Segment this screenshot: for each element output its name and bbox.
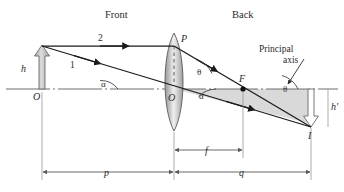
focal-point-dot	[240, 86, 245, 91]
label-front: Front	[105, 9, 128, 20]
label-angle-alpha-right: α	[199, 91, 204, 101]
label-ray-2: 2	[98, 33, 103, 43]
label-object-height: h	[21, 63, 26, 74]
ray-diagram-svg: Front Back Principal axis h h' 1 2 O O P…	[0, 0, 344, 192]
label-angle-alpha-left: α	[101, 79, 106, 89]
label-distance-q: q	[239, 167, 244, 178]
label-point-I: I	[307, 130, 312, 141]
label-point-P: P	[180, 33, 187, 44]
label-distance-f: f	[205, 145, 209, 156]
label-angle-theta-left: θ	[197, 67, 201, 77]
label-ray-1: 1	[70, 60, 75, 70]
object-arrow	[35, 45, 50, 89]
figure-canvas: Front Back Principal axis h h' 1 2 O O P…	[0, 0, 344, 192]
label-point-lens-center-O: O	[168, 92, 175, 103]
label-angle-theta-right: θ	[283, 84, 287, 94]
ray-1-arrowhead-left	[74, 56, 98, 63]
label-point-F: F	[238, 73, 246, 84]
label-distance-p: p	[103, 167, 109, 178]
label-back: Back	[232, 9, 254, 20]
label-image-height: h'	[331, 101, 339, 112]
label-point-object-O: O	[33, 91, 40, 102]
label-principal-axis-line2: axis	[283, 55, 299, 65]
label-principal-axis-line1: Principal	[259, 44, 294, 54]
